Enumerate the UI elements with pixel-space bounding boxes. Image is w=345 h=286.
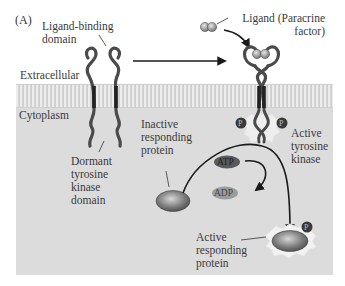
label-line: domain: [71, 194, 112, 207]
panel-label: (A): [15, 13, 32, 28]
dormant-kinase-domain-label: Dormant tyrosine kinase domain: [71, 155, 112, 207]
label-line: Dormant: [71, 155, 112, 168]
label-line: Ligand-binding: [42, 20, 114, 33]
ligand-label: Ligand (Paracrine factor): [232, 12, 325, 38]
ligand-binding-domain-label: Ligand-binding domain: [42, 20, 114, 46]
active-kinase-label: Active tyrosine kinase: [291, 127, 328, 166]
bound-ligand: [252, 49, 269, 58]
extracellular-label: Extracellular: [20, 69, 79, 82]
ligand-leader-line: [217, 18, 228, 24]
label-line: protein: [141, 144, 192, 157]
label-line: responding: [141, 131, 192, 144]
atp-label: ATP: [217, 156, 234, 169]
cell-membrane: [16, 84, 333, 108]
free-ligand: [200, 22, 216, 31]
label-line: Active: [196, 231, 247, 244]
inactive-responding-protein: [156, 191, 190, 212]
phosphate-label-right: P: [279, 117, 283, 130]
active-responding-protein: [272, 231, 308, 252]
receptor-tyrosine-kinase-diagram: (A) Ligand-binding domain Extracellular …: [0, 0, 345, 286]
cytoplasm-label: Cytoplasm: [19, 109, 69, 122]
inactive-protein-label: Inactive responding protein: [141, 118, 192, 157]
label-line: responding: [196, 244, 247, 257]
label-line: tyrosine: [291, 140, 328, 153]
label-line: Active: [291, 127, 328, 140]
label-line: kinase: [291, 153, 328, 166]
phosphate-label-protein: P: [304, 221, 308, 234]
label-line: Ligand (Paracrine: [232, 12, 325, 25]
label-line: tyrosine: [71, 168, 112, 181]
phosphate-label-left: P: [238, 117, 242, 130]
label-line: domain: [42, 33, 114, 46]
label-line: kinase: [71, 181, 112, 194]
label-line: Inactive: [141, 118, 192, 131]
adp-label: ADP: [214, 187, 233, 200]
active-protein-label: Active responding protein: [196, 231, 247, 270]
label-line: protein: [196, 257, 247, 270]
label-line: factor): [232, 25, 325, 38]
